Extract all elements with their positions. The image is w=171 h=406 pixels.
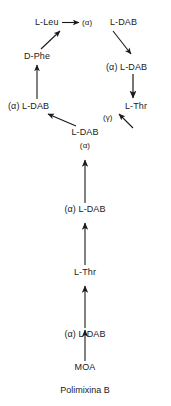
node-l-thr-chain: L-Thr [74, 267, 96, 277]
arrow-dphe-to-lleu [41, 31, 60, 49]
node-l-thr-right: L-Thr [125, 101, 147, 111]
polymyxin-b-structure-diagram: L-Leu (α) L-DAB D-Phe (α) L-DAB (α) L-DA… [0, 0, 171, 406]
diagram-caption: Polimixina B [60, 385, 110, 395]
node-alpha-top: (α) [82, 18, 92, 28]
node-gamma-right: (γ) [103, 113, 113, 123]
node-l-dab-center: L-DAB [71, 127, 98, 137]
node-l-leu: L-Leu [35, 17, 59, 27]
arrow-ldab-to-alphaldab-left [48, 114, 76, 126]
node-d-phe: D-Phe [24, 51, 50, 61]
node-alpha-l-dab-chain2: (α) L-DAB [64, 329, 105, 339]
arrow-ldab-to-alphaldab-right [113, 31, 131, 54]
node-alpha-l-dab-right: (α) L-DAB [106, 62, 147, 72]
node-alpha-l-dab-chain1: (α) L-DAB [64, 204, 105, 214]
arrow-to-gamma [119, 114, 133, 128]
node-moa: MOA [75, 362, 96, 372]
node-alpha-center: (α) [80, 141, 90, 151]
node-l-dab-top-right: L-DAB [110, 17, 137, 27]
node-alpha-l-dab-left: (α) L-DAB [8, 101, 49, 111]
